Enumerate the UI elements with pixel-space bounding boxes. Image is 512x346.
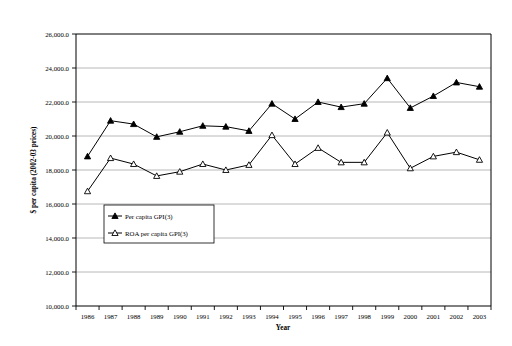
y-tick-label: 12,000.0 (45, 269, 69, 276)
x-tick-label: 1988 (127, 313, 141, 320)
x-tick-label: 2000 (404, 313, 418, 320)
x-tick-label: 2002 (450, 313, 464, 320)
line-chart: 10,000.012,000.014,000.016,000.018,000.0… (0, 0, 512, 346)
chart-legend: Per capita GPI(3)ROA per capita GPI(3) (104, 205, 214, 243)
x-tick-label: 1997 (334, 313, 348, 320)
x-axis-title: Year (276, 324, 291, 332)
y-tick-label: 14,000.0 (45, 235, 69, 242)
x-tick-label: 1994 (265, 313, 279, 320)
x-tick-label: 1986 (81, 313, 95, 320)
chart-background (0, 0, 512, 346)
x-tick-label: 1990 (173, 313, 187, 320)
x-tick-label: 1998 (357, 313, 371, 320)
y-axis-title: $ per capita (2002-03 prices) (30, 126, 38, 214)
x-tick-label: 1992 (219, 313, 233, 320)
y-tick-label: 16,000.0 (45, 201, 69, 208)
x-tick-label: 2001 (427, 313, 441, 320)
y-tick-label: 20,000.0 (45, 133, 69, 140)
x-tick-label: 1991 (196, 313, 210, 320)
x-tick-label: 1993 (242, 313, 256, 320)
x-tick-label: 1989 (150, 313, 164, 320)
y-tick-label: 18,000.0 (45, 167, 69, 174)
y-tick-label: 10,000.0 (45, 303, 69, 310)
y-tick-label: 22,000.0 (45, 99, 69, 106)
legend-label: ROA per capita GPI(3) (125, 230, 188, 238)
chart-container: 10,000.012,000.014,000.016,000.018,000.0… (0, 0, 512, 346)
x-tick-label: 2003 (473, 313, 487, 320)
x-tick-label: 1995 (288, 313, 302, 320)
x-tick-label: 1999 (380, 313, 394, 320)
y-tick-label: 26,000.0 (45, 31, 69, 38)
x-tick-label: 1996 (311, 313, 325, 320)
x-tick-label: 1987 (104, 313, 118, 320)
y-tick-label: 24,000.0 (45, 65, 69, 72)
legend-box (104, 205, 214, 243)
legend-label: Per capita GPI(3) (125, 213, 173, 221)
